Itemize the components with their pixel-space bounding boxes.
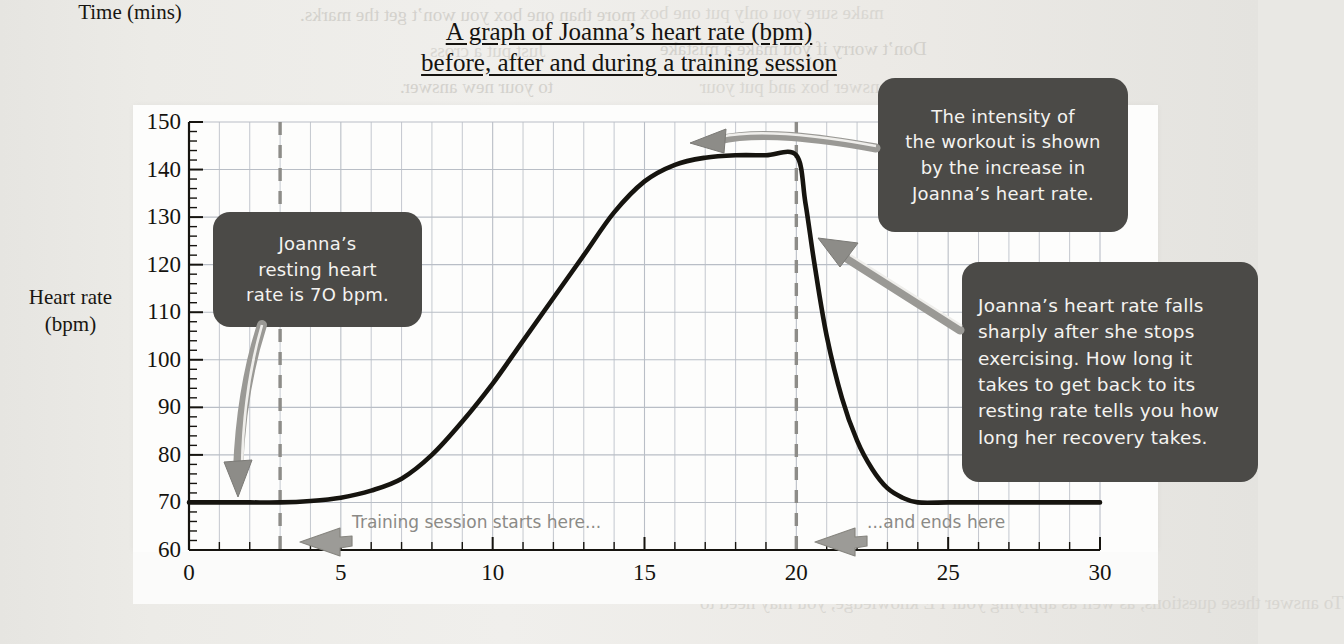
x-tick-label: 20 <box>766 560 826 586</box>
chart-vertical-markers <box>280 122 796 550</box>
x-tick-label: 5 <box>311 560 371 586</box>
y-tick-label: 130 <box>121 204 181 230</box>
callout-recovery-line-2: sharply after she stops <box>978 319 1194 345</box>
x-tick-label: 30 <box>1070 560 1130 586</box>
y-tick-label: 100 <box>121 347 181 373</box>
callout-recovery-line-4: takes to get back to its <box>978 372 1195 398</box>
x-tick-label: 0 <box>159 560 219 586</box>
callout-intensity-line-4: Joanna’s heart rate. <box>912 181 1094 207</box>
page-title: A graph of Joanna’s heart rate (bpm) bef… <box>0 16 1258 78</box>
y-tick-label: 140 <box>121 157 181 183</box>
callout-recovery-line-5: resting rate tells you how <box>978 398 1219 424</box>
callout-recovery: Joanna’s heart rate falls sharply after … <box>962 262 1258 482</box>
y-tick-label: 150 <box>121 109 181 135</box>
y-tick-label: 70 <box>121 489 181 515</box>
bleed-through-text: to your new answer. <box>400 76 553 98</box>
y-tick-label: 90 <box>121 394 181 420</box>
x-tick-label: 15 <box>615 560 675 586</box>
callout-intensity-line-2: the workout is shown <box>905 129 1100 155</box>
callout-intensity-line-3: by the increase in <box>921 155 1086 181</box>
callout-recovery-line-1: Joanna’s heart rate falls <box>978 293 1204 319</box>
x-tick-label: 10 <box>463 560 523 586</box>
page-title-line-2: before, after and during a training sess… <box>421 47 837 78</box>
callout-resting-rate-line-3: rate is 7O bpm. <box>246 282 389 308</box>
callout-resting-rate: Joanna’s resting heart rate is 7O bpm. <box>213 212 422 327</box>
callout-recovery-line-3: exercising. How long it <box>978 346 1192 372</box>
x-tick-label: 25 <box>918 560 978 586</box>
y-axis-label-line-2: (bpm) <box>8 312 133 337</box>
callout-resting-rate-line-2: resting heart <box>258 257 377 283</box>
callout-intensity-line-1: The intensity of <box>931 104 1075 130</box>
y-tick-label: 120 <box>121 252 181 278</box>
y-axis-label-line-1: Heart rate <box>8 285 133 310</box>
callout-intensity: The intensity of the workout is shown by… <box>878 78 1128 232</box>
annotation-session-end: ...and ends here <box>867 512 1005 532</box>
y-tick-label: 80 <box>121 442 181 468</box>
y-tick-label: 110 <box>121 299 181 325</box>
annotation-session-start: Training session starts here... <box>352 512 601 532</box>
page-title-line-1: A graph of Joanna’s heart rate (bpm) <box>446 16 813 47</box>
callout-resting-rate-line-1: Joanna’s <box>279 231 357 257</box>
bleed-through-text: answer box and put your <box>700 76 888 98</box>
callout-recovery-line-6: long her recovery takes. <box>978 425 1208 451</box>
